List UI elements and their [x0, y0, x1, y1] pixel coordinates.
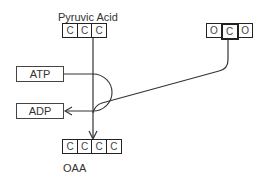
atp-box: ATP [16, 66, 64, 82]
co2-molecule: O C O [206, 23, 253, 40]
carbon-atom: C [77, 23, 93, 38]
carbon-atom: C [106, 139, 122, 154]
oxygen-atom: O [206, 23, 222, 38]
carbon-atom: C [62, 23, 78, 38]
carbon-atom: C [91, 23, 107, 38]
carbon-atom: C [91, 139, 107, 154]
carbon-atom-highlighted: C [221, 23, 239, 40]
adp-box: ADP [16, 103, 64, 119]
pyruvic-acid-molecule: C C C [62, 23, 107, 38]
carbon-atom: C [62, 139, 78, 154]
oaa-molecule: C C C C [62, 139, 122, 154]
co2-curve [93, 38, 228, 113]
pyruvic-acid-label: Pyruvic Acid [58, 11, 118, 23]
oxygen-atom: O [237, 23, 253, 38]
energy-arc [93, 74, 112, 111]
carbon-atom: C [77, 139, 93, 154]
oaa-label: OAA [63, 162, 86, 174]
